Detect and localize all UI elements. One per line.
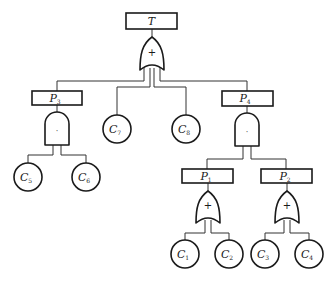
intermediate-event-P3: P3: [32, 91, 82, 105]
basic-event-C6: C6: [72, 163, 100, 191]
edges: [28, 29, 309, 240]
basic-event-C5: C5: [14, 163, 42, 191]
top-event-T: T: [126, 13, 177, 29]
or-gate-icon: +: [275, 191, 299, 223]
intermediate-event-P4: P4: [222, 91, 273, 106]
basic-event-C3: C3: [251, 240, 279, 268]
svg-text:+: +: [204, 200, 212, 211]
or-gate-icon: +: [140, 37, 164, 70]
svg-text:+: +: [283, 200, 291, 211]
svg-text:·: ·: [246, 128, 249, 137]
intermediate-event-P1: P1: [182, 169, 233, 183]
basic-event-C7: C7: [103, 115, 131, 143]
basic-event-C4: C4: [295, 240, 323, 268]
basic-event-C2: C2: [215, 240, 243, 268]
basic-event-C8: C8: [172, 115, 200, 143]
basic-event-C1: C1: [171, 240, 199, 268]
and-gate-icon: ·: [235, 113, 259, 146]
or-gate-icon: +: [196, 191, 220, 223]
svg-text:+: +: [148, 47, 156, 58]
intermediate-event-P2: P2: [261, 169, 312, 183]
fault-tree-diagram: T + P3 · C5 C6 C7 C8 P4 ·: [0, 0, 336, 282]
and-gate-icon: ·: [45, 112, 69, 145]
svg-text:·: ·: [56, 127, 59, 136]
